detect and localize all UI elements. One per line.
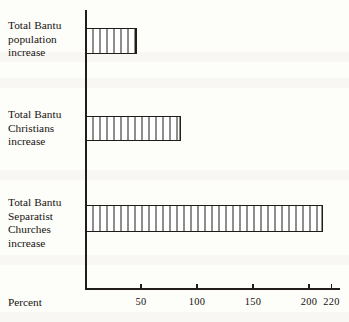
x-tick-mark-100 [196,284,197,290]
x-tick-label-150: 150 [245,296,262,308]
x-axis-title: Percent [8,296,42,309]
x-axis-line [85,288,340,290]
x-tick-mark-220 [331,284,332,290]
category-label-bantu-separatist-churches: Total Bantu Separatist Churches increase [8,196,84,250]
x-tick-mark-150 [252,284,253,290]
bar-bantu-population [85,28,137,54]
x-tick-label-200: 200 [301,296,318,308]
y-axis-line [85,10,87,290]
x-tick-label-50: 50 [136,296,147,308]
category-label-bantu-christians: Total Bantu Christians increase [8,108,84,149]
bar-bantu-separatist-churches [85,205,323,232]
scan-ghost-band [0,170,349,180]
scan-ghost-band [0,78,349,88]
x-tick-label-220: 220 [323,296,340,308]
x-tick-mark-50 [140,284,141,290]
x-tick-mark-200 [308,284,309,290]
bar-bantu-christians [85,116,181,141]
scan-ghost-band [0,255,349,265]
scan-ghost-band [0,312,349,322]
x-tick-label-100: 100 [189,296,206,308]
category-label-bantu-population: Total Bantu population increase [8,19,84,60]
